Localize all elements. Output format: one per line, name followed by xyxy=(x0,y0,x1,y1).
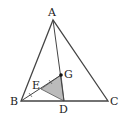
label-G: G xyxy=(64,68,73,81)
label-C: C xyxy=(110,95,118,108)
label-A: A xyxy=(47,6,57,19)
label-E: E xyxy=(32,79,40,92)
label-B: B xyxy=(10,95,18,108)
point-G xyxy=(59,73,63,77)
geometry-figure: A B C D E G xyxy=(0,0,123,115)
label-D: D xyxy=(59,103,68,115)
